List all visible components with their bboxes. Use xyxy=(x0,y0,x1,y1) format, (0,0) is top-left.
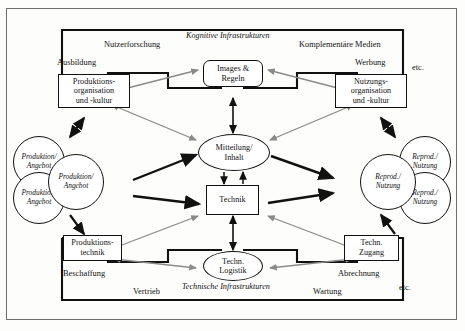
circle-line: Angebot xyxy=(21,198,56,207)
arrow-circles-prodtechnik xyxy=(70,215,84,234)
label-komplementaere-medien: Komplementäre Medien xyxy=(299,41,381,50)
label-vertrieb: Vertrieb xyxy=(133,288,160,297)
node-produktionsorganisation[interactable]: Produktions- organisation und -kultur xyxy=(58,74,130,108)
arrow-circles-technzugang xyxy=(381,215,395,234)
label-abrechnung: Abrechnung xyxy=(338,270,379,279)
node-line: Technik xyxy=(219,195,245,205)
node-line: Techn. xyxy=(219,257,246,266)
node-line: Images & xyxy=(217,64,249,74)
node-line: Produktions- xyxy=(73,77,115,87)
node-techn-zugang[interactable]: Techn. Zugang xyxy=(344,235,399,261)
node-line: organisation xyxy=(73,86,115,96)
region-title-cognitive: Kognitive Infrastrukturen xyxy=(186,32,270,41)
node-line: Nutzungs- xyxy=(351,77,391,87)
node-line: Zugang xyxy=(359,248,384,258)
node-line: und -kultur xyxy=(351,96,391,106)
label-nutzerforschung: Nutzerforschung xyxy=(104,41,160,50)
circle-produktion-angebot-3[interactable]: Produktion/ Angebot xyxy=(48,154,104,210)
circle-line: Nutzung xyxy=(412,162,437,171)
node-technik[interactable]: Technik xyxy=(206,185,259,215)
node-line: Regeln xyxy=(217,74,249,84)
arrow-technik-to-right xyxy=(268,193,333,203)
circle-reprod-nutzung-3[interactable]: Reprod./ Nutzung xyxy=(360,154,416,210)
circle-line: Nutzung xyxy=(375,182,400,191)
node-line: Techn. xyxy=(359,238,384,248)
label-etc-top: etc. xyxy=(412,64,424,73)
arrow-prodorg-circles xyxy=(70,118,84,137)
arrow-mitteilung-to-right xyxy=(271,156,333,178)
arrow-prodtechnik-logistik xyxy=(114,259,196,268)
node-line: organisation xyxy=(351,86,391,96)
node-line: technik xyxy=(71,248,113,258)
region-title-technical: Technische Infrastrukturen xyxy=(182,283,270,292)
node-mitteilung-inhalt[interactable]: Mitteilung/ Inhalt xyxy=(198,134,270,171)
node-produktionstechnik[interactable]: Produktions- technik xyxy=(63,235,122,261)
arrow-left-to-technik xyxy=(133,196,199,204)
label-ausbildung: Ausbildung xyxy=(57,59,96,68)
node-line: und -kultur xyxy=(73,96,115,106)
arrow-prodorg-mitteilung xyxy=(112,105,196,140)
circle-line: Nutzung xyxy=(412,198,437,207)
node-line: Produktions- xyxy=(71,238,113,248)
label-beschaffung: Beschaffung xyxy=(63,270,105,279)
node-line: Mitteilung/ xyxy=(216,143,253,152)
node-nutzungsorganisation[interactable]: Nutzungs- organisation und -kultur xyxy=(335,74,407,108)
arrow-technik-technzugang xyxy=(268,216,352,248)
arrow-nutzorg-circles xyxy=(381,118,395,137)
node-techn-logistik[interactable]: Techn. Logistik xyxy=(203,251,263,281)
label-werbung: Werbung xyxy=(355,59,386,68)
arrow-prodtechnik-technik xyxy=(114,216,198,248)
label-etc-bottom: etc. xyxy=(399,284,411,293)
arrow-logistik-technzugang xyxy=(270,259,352,268)
diagram-canvas: Kognitive Infrastrukturen Technische Inf… xyxy=(0,0,465,331)
arrow-mitteilung-nutzorg xyxy=(270,105,353,140)
label-wartung: Wartung xyxy=(313,288,342,297)
node-images-regeln[interactable]: Images & Regeln xyxy=(203,60,263,87)
arrow-left-to-mitteilung xyxy=(133,155,196,180)
node-line: Logistik xyxy=(219,266,246,275)
circle-line: Angebot xyxy=(58,182,93,191)
node-line: Inhalt xyxy=(216,153,253,162)
